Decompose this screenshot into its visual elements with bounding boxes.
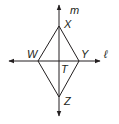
geometry-diagram: m X W Y ℓ T Z — [0, 0, 119, 124]
label-line-l: ℓ — [103, 48, 108, 60]
label-point-w: W — [27, 48, 39, 60]
label-point-y: Y — [81, 48, 89, 60]
label-point-t: T — [61, 63, 69, 75]
label-line-m: m — [70, 4, 79, 16]
label-point-x: X — [63, 18, 72, 30]
label-point-z: Z — [63, 95, 72, 107]
